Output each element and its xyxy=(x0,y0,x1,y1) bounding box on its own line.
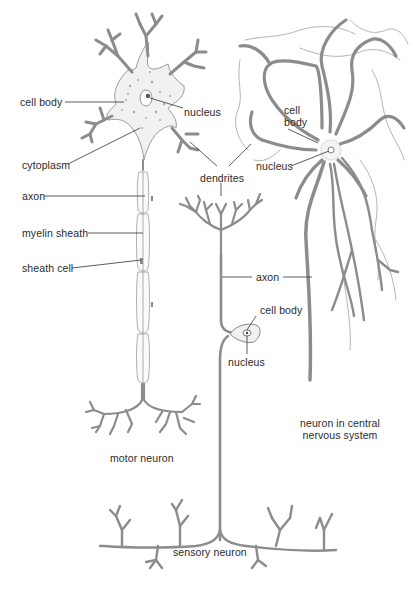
neuron-diagram xyxy=(0,0,413,590)
label-motor-cell-body: cell body xyxy=(20,96,62,108)
motor-neuron xyxy=(82,14,206,434)
label-cytoplasm: cytoplasm xyxy=(22,159,70,171)
label-sensory-cell-body: cell body xyxy=(260,304,302,316)
cns-nucleus xyxy=(328,147,334,153)
label-cns-cell-body-2: body xyxy=(284,116,307,128)
label-sensory-nucleus: nucleus xyxy=(228,356,265,368)
caption-cns-neuron-2: nervous system xyxy=(290,429,390,441)
sensory-neuron xyxy=(100,194,336,568)
label-motor-nucleus: nucleus xyxy=(184,106,221,118)
label-cns-nucleus: nucleus xyxy=(256,160,293,172)
caption-motor-neuron: motor neuron xyxy=(110,452,174,464)
label-axon-shared: axon xyxy=(256,271,279,283)
caption-cns-neuron-1: neuron in central xyxy=(290,417,390,429)
label-sheath-cell: sheath cell xyxy=(22,262,73,274)
label-cns-cell-body-1: cell xyxy=(284,104,300,116)
sheath-cell-marker xyxy=(140,258,143,264)
label-motor-axon: axon xyxy=(22,190,45,202)
label-dendrites: dendrites xyxy=(200,172,244,184)
caption-sensory-neuron: sensory neuron xyxy=(173,546,247,558)
label-myelin-sheath: myelin sheath xyxy=(22,227,88,239)
